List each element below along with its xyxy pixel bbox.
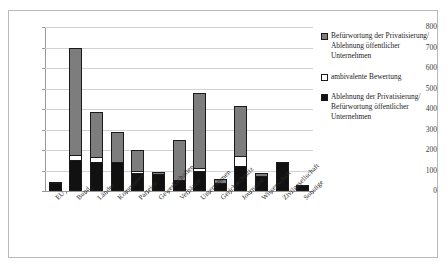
legend-entry[interactable]: Befürwortung der Privatisierung/ Ablehnu… xyxy=(321,31,433,62)
legend-swatch-black xyxy=(321,94,328,101)
chart-frame: 0100200300400500600700800 EUBundLänderKo… xyxy=(8,10,438,258)
bar-l-nder[interactable] xyxy=(90,112,103,191)
legend-entry[interactable]: ambivalente Bewertung xyxy=(321,72,433,82)
bar-segment xyxy=(193,93,206,169)
bar-segment xyxy=(234,106,247,156)
legend-label: Befürwortung der Privatisierung/ Ablehnu… xyxy=(331,31,433,62)
bar-segment xyxy=(111,132,124,163)
bar-segment xyxy=(234,156,247,166)
legend-swatch-white xyxy=(321,74,328,81)
bar-segment xyxy=(131,150,144,171)
bar-series-container xyxy=(45,27,313,191)
bar-segment xyxy=(69,160,82,191)
legend-entry[interactable]: Ablehnung der Privatisierung/ Befürwortu… xyxy=(321,92,433,123)
y-tick-label-800: 800 xyxy=(411,23,437,31)
legend-swatch-grey xyxy=(321,33,328,40)
bar-unternehmen[interactable] xyxy=(193,93,206,191)
bar-segment xyxy=(90,112,103,157)
bar-kommunen[interactable] xyxy=(111,132,124,191)
y-tick-label-0: 0 xyxy=(411,187,437,195)
chart-legend: Befürwortung der Privatisierung/ Ablehnu… xyxy=(321,31,433,132)
y-tick-mark-0 xyxy=(42,191,45,192)
bar-segment xyxy=(69,48,82,156)
bar-bund[interactable] xyxy=(69,48,82,192)
y-tick-label-100: 100 xyxy=(411,167,437,175)
y-tick-label-200: 200 xyxy=(411,146,437,154)
bar-segment xyxy=(90,162,103,191)
plot-area xyxy=(45,27,313,191)
legend-label: Ablehnung der Privatisierung/ Befürwortu… xyxy=(331,92,433,123)
legend-label: ambivalente Bewertung xyxy=(331,72,433,82)
